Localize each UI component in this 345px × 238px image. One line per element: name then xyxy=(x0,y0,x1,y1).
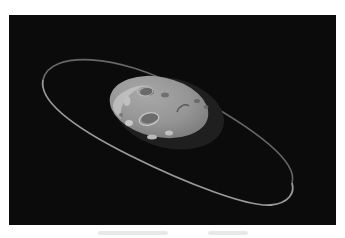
image-caption xyxy=(0,228,345,238)
image-frame xyxy=(9,15,336,225)
asteroid-scene xyxy=(9,15,336,225)
caption-fragment xyxy=(208,231,248,235)
asteroid xyxy=(104,65,232,160)
caption-fragment xyxy=(98,231,168,235)
